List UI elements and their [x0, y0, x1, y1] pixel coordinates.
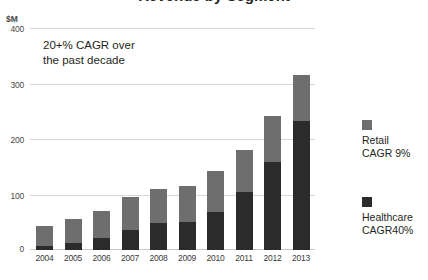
stacked-bar-chart: Revenue by Segment $M [0, 0, 428, 280]
chart-legend: Retail CAGR 9% Healthcare CAGR40% [362, 0, 428, 280]
x-tick-label-2013: 2013 [284, 253, 318, 263]
annotation-line-2: the past decade [43, 53, 135, 68]
chart-annotation: 20+% CAGR over the past decade [43, 38, 135, 68]
bar-segment-healthcare [264, 162, 281, 250]
bar-segment-retail [36, 226, 53, 245]
legend-sublabel-healthcare: CAGR40% [362, 224, 428, 237]
bar-segment-healthcare [207, 212, 224, 250]
bar-segment-retail [207, 171, 224, 213]
bar-segment-retail [293, 75, 310, 121]
legend-label-healthcare: Healthcare [362, 211, 428, 224]
bar-segment-healthcare [93, 238, 110, 250]
y-axis-unit-label: $M [6, 14, 18, 24]
legend-item-healthcare[interactable]: Healthcare CAGR40% [362, 197, 428, 237]
bar-segment-retail [179, 186, 196, 223]
bar-segment-retail [65, 219, 82, 243]
annotation-line-1: 20+% CAGR over [43, 38, 135, 53]
bar-segment-healthcare [65, 243, 82, 250]
legend-swatch-retail-icon [362, 120, 372, 130]
legend-label-retail: Retail [362, 134, 428, 147]
y-tick-label-200: 200 [0, 135, 24, 145]
legend-item-retail[interactable]: Retail CAGR 9% [362, 120, 428, 160]
bar-segment-retail [264, 116, 281, 162]
bar-segment-retail [150, 189, 167, 223]
y-tick-label-100: 100 [0, 191, 24, 201]
bar-segment-retail [93, 211, 110, 238]
legend-sublabel-retail: CAGR 9% [362, 147, 428, 160]
bar-segment-healthcare [236, 192, 253, 250]
page-title: Revenue by Segment [138, 0, 290, 4]
bar-segment-healthcare [150, 223, 167, 250]
bar-segment-healthcare [179, 222, 196, 250]
bar-segment-healthcare [293, 121, 310, 250]
bar-segment-healthcare [122, 230, 139, 251]
y-tick-label-400: 400 [0, 24, 24, 34]
bar-segment-healthcare [36, 246, 53, 250]
bar-segment-retail [122, 197, 139, 229]
x-axis-labels: 2004 2005 2006 2007 2008 2009 2010 2011 … [30, 253, 315, 271]
y-tick-label-300: 300 [0, 80, 24, 90]
bar-segment-retail [236, 150, 253, 192]
legend-swatch-healthcare-icon [362, 197, 372, 207]
y-tick-label-0: 0 [0, 244, 24, 254]
